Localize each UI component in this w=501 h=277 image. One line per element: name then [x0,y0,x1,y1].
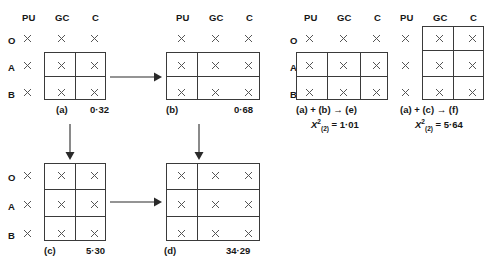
panel-c-value: 5·30 [86,245,105,256]
panel-b-header-pu: PU [176,12,190,23]
panel-e-chisq-sub: (2) [321,125,329,132]
panel-e-cell-o-gc [339,34,348,43]
panel-d-box-hline-2 [166,216,260,217]
panel-f-box-vline [453,26,454,100]
panel-c-box-hline-2 [44,216,106,217]
panel-f-chisq: X2(2) = 5·64 [415,118,463,132]
panel-b-caption: (b) [166,104,178,115]
panel-a-header-pu: PU [22,12,36,23]
panel-f-box-hline-1 [422,50,484,51]
panel-a-box-hline [44,76,106,77]
panel-c-box-hline-1 [44,189,106,190]
panel-a-cell-o-pu [23,34,32,43]
panel-d-caption: (d) [164,245,176,256]
panel-e-chisq: X2(2) = 1·01 [311,118,359,132]
panel-b-value: 0·68 [234,104,253,115]
panel-c-cell-o-pu [23,171,32,180]
panel-a-row-label-o: O [8,35,15,46]
panel-a-row-label-a: A [8,62,15,73]
panel-a-caption: (a) [56,104,68,115]
panel-f-caption: (a) + (c) → (f) [400,104,458,115]
panel-e-header-pu: PU [304,12,318,23]
panel-f-header-pu: PU [400,12,414,23]
panel-c-row-label-a: A [8,201,15,212]
arrow-b-to-d [192,124,206,160]
panel-e-box-hline [296,76,388,77]
panel-f-box-hline-2 [422,76,484,77]
panel-d-box-vline [197,163,198,241]
panel-f-chisq-sup: 2 [421,118,425,125]
panel-c-box-vline [75,163,76,241]
panel-e-caption: (a) + (b) → (e) [296,104,357,115]
panel-a-row-label-b: B [8,89,15,100]
panel-b-header-c: C [246,12,253,23]
panel-e-cell-o-c [372,34,381,43]
arrow-c-to-d [110,195,162,209]
panel-b-header-gc: GC [209,12,224,23]
panel-c-cell-b-pu [23,229,32,238]
panel-d-value: 34·29 [226,245,250,256]
panel-f-cell-b-pu [401,88,410,97]
panel-c-row-label-b: B [8,230,15,241]
panel-f-chisq-sub: (2) [425,125,433,132]
panel-b-cell-o-pu [177,34,186,43]
panel-e-row-label-o: O [290,35,297,46]
panel-d-grouping-box [166,163,260,241]
panel-a-header-c: C [92,12,99,23]
panel-a-header-gc: GC [55,12,70,23]
panel-b-box-hline [166,76,260,77]
panel-e-chisq-sup: 2 [317,118,321,125]
arrow-a-to-b [110,70,162,84]
panel-a-cell-o-c [90,34,99,43]
panel-e-header-c: C [374,12,381,23]
panel-c-cell-a-pu [23,200,32,209]
panel-b-cell-o-gc [211,34,220,43]
panel-a-cell-b-pu [23,88,32,97]
panel-f-chisq-value: = 5·64 [436,119,463,130]
panel-a-cell-a-pu [23,61,32,70]
panel-d-box-hline-1 [166,189,260,190]
panel-e-cell-o-pu [305,34,314,43]
panel-f-header-c: C [470,12,477,23]
panel-f-cell-a-pu [401,61,410,70]
panel-c-row-label-o: O [8,172,15,183]
panel-a-cell-o-gc [57,34,66,43]
panel-e-chisq-value: = 1·01 [332,119,359,130]
panel-e-header-gc: GC [337,12,352,23]
arrow-a-to-c [63,124,77,160]
panel-c-caption: (c) [44,245,56,256]
panel-b-cell-o-c [244,34,253,43]
panel-f-cell-o-pu [401,34,410,43]
panel-f-header-gc: GC [433,12,448,23]
panel-a-value: 0·32 [90,104,109,115]
